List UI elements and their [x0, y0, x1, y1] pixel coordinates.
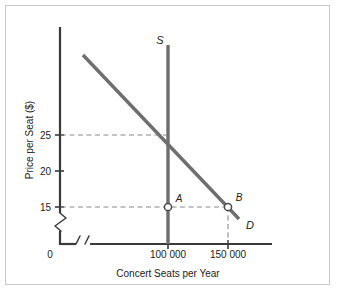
y-tick-label-15: 15	[40, 202, 52, 213]
axes-group	[60, 27, 272, 245]
x-axis-break-icon	[76, 236, 89, 244]
supply-demand-chart: S D A B 25 20 15 0 100 000 150 000 Conce…	[0, 0, 343, 296]
x-axis-title: Concert Seats per Year	[116, 268, 220, 279]
data-point-B[interactable]	[224, 203, 231, 210]
y-tick-label-20: 20	[40, 166, 52, 177]
x-tick-label-100000: 100 000	[150, 249, 187, 260]
origin-label: 0	[47, 249, 53, 260]
figure-container: S D A B 25 20 15 0 100 000 150 000 Conce…	[0, 0, 343, 296]
y-axis-break-icon	[55, 213, 66, 231]
x-tick-label-150000: 150 000	[210, 249, 247, 260]
supply-curve-label: S	[156, 34, 164, 46]
curves-group	[83, 45, 239, 244]
demand-curve-label: D	[246, 219, 254, 231]
y-axis-title: Price per Seat ($)	[24, 101, 35, 179]
guide-lines-group	[61, 135, 228, 243]
y-tick-label-25: 25	[40, 130, 52, 141]
data-point-label-A: A	[175, 193, 183, 204]
demand-curve-D	[83, 55, 239, 219]
data-point-A[interactable]	[164, 203, 171, 210]
tick-marks-group	[55, 135, 228, 249]
data-point-label-B: B	[236, 192, 243, 203]
